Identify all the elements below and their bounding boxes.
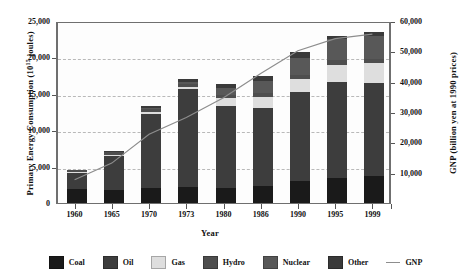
legend-item-gnp[interactable]: GNP <box>386 258 422 267</box>
y-axis-left-tick-label: 10,000 <box>4 126 50 135</box>
legend-color-swatch <box>328 256 343 269</box>
y-axis-left-tick-label: 0 <box>4 199 50 208</box>
x-axis-tick-mark <box>75 204 76 209</box>
legend-label: Gas <box>171 258 184 267</box>
legend-label: Coal <box>69 258 85 267</box>
legend-color-swatch <box>203 256 218 269</box>
legend-item-other[interactable]: Other <box>328 256 368 269</box>
x-axis-tick-mark <box>149 204 150 209</box>
gnp-line <box>75 34 373 180</box>
legend-color-swatch <box>103 256 118 269</box>
legend-item-nuclear[interactable]: Nuclear <box>263 256 310 269</box>
x-axis-tick-mark <box>112 204 113 209</box>
y-axis-left-tick-mark <box>52 168 56 169</box>
y-axis-right-tick-label: 20,000 <box>400 138 422 147</box>
y-axis-right-tick-label: 10,000 <box>400 169 422 178</box>
y-axis-right-tick-label: 40,000 <box>400 78 422 87</box>
y-axis-right-tick-mark <box>391 174 395 175</box>
x-axis-tick-label-1980: 1980 <box>204 210 244 219</box>
y-axis-left-tick-label: 25,000 <box>4 17 50 26</box>
x-axis-tick-mark <box>298 204 299 209</box>
legend-label: Other <box>348 258 368 267</box>
y-axis-left-title: Primary Energy Consumption (1015 joules) <box>25 15 36 211</box>
legend-item-oil[interactable]: Oil <box>103 256 134 269</box>
y-axis-right-tick-mark <box>391 22 395 23</box>
y-axis-right-tick-mark <box>391 143 395 144</box>
y-axis-right-tick-mark <box>391 52 395 53</box>
chart-legend: CoalOilGasHydroNuclearOtherGNP <box>0 252 471 272</box>
y-axis-right-tick-label: 30,000 <box>400 108 422 117</box>
legend-item-hydro[interactable]: Hydro <box>203 256 245 269</box>
legend-color-swatch <box>263 256 278 269</box>
x-axis-tick-label-1986: 1986 <box>241 210 281 219</box>
x-axis-tick-mark <box>372 204 373 209</box>
legend-color-swatch <box>49 256 64 269</box>
y-axis-left-tick-label: 20,000 <box>4 53 50 62</box>
y-axis-right-tick-label: 60,000 <box>400 17 422 26</box>
x-axis-title: Year <box>0 228 420 238</box>
x-axis-tick-mark <box>224 204 225 209</box>
x-axis-tick-mark <box>261 204 262 209</box>
x-axis-tick-label-1995: 1995 <box>315 210 355 219</box>
x-axis-tick-label-1970: 1970 <box>129 210 169 219</box>
energy-gnp-chart: Primary Energy Consumption (1015 joules)… <box>0 0 471 279</box>
y-axis-left-tick-label: 5,000 <box>4 163 50 172</box>
legend-item-coal[interactable]: Coal <box>49 256 85 269</box>
legend-item-gas[interactable]: Gas <box>151 256 184 269</box>
gnp-line-layer <box>56 22 391 204</box>
y-axis-left-tick-label: 15,000 <box>4 90 50 99</box>
legend-label: Oil <box>123 258 134 267</box>
y-axis-right-title: GNP (billion yen at 1990 prices) <box>448 15 458 211</box>
x-axis-tick-label-1999: 1999 <box>352 210 392 219</box>
y-axis-right-tick-mark <box>391 113 395 114</box>
x-axis-tick-mark <box>391 204 392 209</box>
x-axis-tick-label-1960: 1960 <box>55 210 95 219</box>
y-axis-left-tick-mark <box>52 58 56 59</box>
y-axis-left-tick-mark <box>52 131 56 132</box>
legend-line-swatch <box>386 262 400 263</box>
y-axis-right-tick-label: 50,000 <box>400 47 422 56</box>
legend-label: GNP <box>405 258 422 267</box>
x-axis-tick-label-1990: 1990 <box>278 210 318 219</box>
x-axis-tick-label-1965: 1965 <box>92 210 132 219</box>
legend-label: Hydro <box>223 258 245 267</box>
x-axis-tick-label-1973: 1973 <box>166 210 206 219</box>
legend-label: Nuclear <box>283 258 310 267</box>
y-axis-left-tick-mark <box>52 95 56 96</box>
y-axis-right-tick-mark <box>391 83 395 84</box>
x-axis-tick-mark <box>335 204 336 209</box>
legend-color-swatch <box>151 256 166 269</box>
x-axis-tick-mark <box>186 204 187 209</box>
